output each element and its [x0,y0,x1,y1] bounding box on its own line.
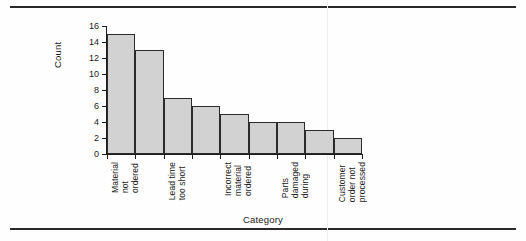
x-axis-tick-mark [334,154,335,159]
x-axis-tick-mark [135,154,136,159]
x-axis-tick-mark [277,154,278,159]
x-axis-title: Category [0,214,526,225]
y-axis-tick-label: 0 [94,150,99,159]
y-axis-tick-label: 4 [94,118,99,127]
page-canvas: Count 0246810121416 MaterialnotorderedLe… [0,0,526,241]
y-axis-tick-label: 10 [89,70,99,79]
category-label-line: Customer [337,162,347,202]
category-label-line: ordered [243,162,253,196]
category-label: Customerorder notprocessed [337,162,367,202]
x-axis-tick-mark [220,154,221,159]
category-label-line: not [120,162,130,193]
bar [334,138,362,154]
y-axis-tick-label: 6 [94,102,99,111]
x-axis-tick-mark [305,154,306,159]
y-axis-tick-label: 16 [89,22,99,31]
category-label-line: damaged [290,162,300,198]
category-label-line: Material [110,162,120,193]
category-label: Incorrectmaterialordered [223,162,253,196]
y-axis-tick-label: 12 [89,54,99,63]
x-axis-tick-mark [249,154,250,159]
bar [135,50,163,154]
y-axis-tick-label: 2 [94,134,99,143]
category-label-line: Incorrect [223,162,233,196]
category-label-line: during [300,162,310,198]
x-axis-tick-mark [192,154,193,159]
bar [305,130,333,154]
category-label-line: Parts [280,162,290,198]
category-label-line: processed [357,162,367,202]
category-label-line: material [233,162,243,196]
category-label: Materialnotordered [110,162,140,193]
category-label: Partsdamagedduring [280,162,310,198]
bar [107,34,135,154]
bar [192,106,220,154]
x-axis-tick-mark [164,154,165,159]
y-axis-tick-label: 8 [94,86,99,95]
bar [220,114,248,154]
bar [164,98,192,154]
y-axis-tick-label: 14 [89,38,99,47]
y-axis-title: Count [52,42,63,68]
category-label: Lead timetoo short [167,162,187,200]
x-axis-tick-mark [362,154,363,159]
x-axis-tick-mark [107,154,108,159]
plot-area [107,26,362,154]
category-label-line: order not [347,162,357,202]
category-label-line: Lead time [167,162,177,200]
x-axis-line [106,154,362,155]
category-label-line: too short [177,162,187,200]
pareto-bar-chart: Count 0246810121416 MaterialnotorderedLe… [0,8,526,233]
bar [249,122,277,154]
category-label-line: ordered [130,162,140,193]
bar [277,122,305,154]
